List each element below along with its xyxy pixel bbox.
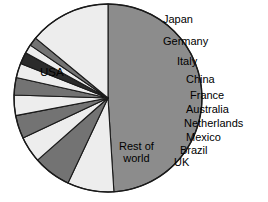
callout-label-italy: Italy xyxy=(177,56,197,68)
callout-label-australia: Australia xyxy=(186,104,229,116)
pie-chart: USA Rest of world Japan Germany Italy Ch… xyxy=(0,0,268,202)
slice-label-rest-of-world-line1: Rest of xyxy=(119,141,154,153)
callout-label-germany: Germany xyxy=(163,36,208,48)
slice-label-rest-of-world: Rest of world xyxy=(119,141,154,164)
callout-label-mexico: Mexico xyxy=(186,132,221,144)
callout-label-uk: UK xyxy=(174,157,189,169)
callout-label-netherlands: Netherlands xyxy=(184,118,243,130)
callout-label-china: China xyxy=(186,74,215,86)
pie-chart-canvas xyxy=(0,0,268,202)
slice-label-rest-of-world-line2: world xyxy=(119,153,154,165)
callout-label-france: France xyxy=(190,90,224,102)
callout-label-brazil: Brazil xyxy=(180,145,208,157)
slice-label-usa: USA xyxy=(40,66,64,78)
callout-label-japan: Japan xyxy=(163,14,193,26)
